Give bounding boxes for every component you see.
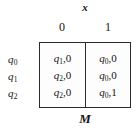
table-cell-q0-1-output: 0	[111, 52, 117, 64]
row-header-q2-subscript: 2	[14, 92, 18, 101]
row-header-q2: q2	[8, 85, 36, 102]
row-header-q0-subscript: 0	[14, 58, 18, 67]
table-cell-q1-1-next-state: q0	[99, 69, 108, 81]
machine-label: M	[39, 111, 131, 127]
table-column-input-1: q0,0 q0,0 q0,1	[85, 43, 130, 107]
row-header-q1-subscript: 1	[14, 75, 18, 84]
table-cell-q0-0-output: 0	[66, 52, 72, 64]
column-header-row: 0 1	[39, 17, 131, 37]
transition-table: q1,0 q2,0 q2,0 q0,0 q0,0 q0,1	[39, 42, 131, 108]
column-header-1: 1	[85, 17, 131, 37]
table-cell-q1-0-output: 0	[66, 69, 72, 81]
table-cell-q0-1-next-state: q0	[99, 52, 108, 64]
table-cell-q2-1-output: 1	[111, 86, 117, 98]
row-header-q0: q0	[8, 51, 36, 68]
row-header-q1: q1	[8, 68, 36, 85]
column-header-0: 0	[39, 17, 85, 37]
row-header-q1-symbol: q1	[8, 70, 17, 82]
row-header-q2-symbol: q2	[8, 87, 17, 99]
table-cell-q0-0-next-state: q1	[54, 52, 63, 64]
table-cell-q2-0-output: 0	[66, 86, 72, 98]
table-cell-q2-1-next-state: q0	[99, 86, 108, 98]
table-cell-q1-1-output: 0	[111, 69, 117, 81]
table-cell-q1-0-next-state: q2	[54, 69, 63, 81]
table-cell-q2-0-next-state: q2	[54, 86, 63, 98]
row-header-column: q0 q1 q2	[8, 45, 36, 107]
table-cell-q2-1: q0,1	[86, 84, 130, 101]
table-cell-q2-0: q2,0	[40, 84, 85, 101]
table-cell-q0-1: q0,0	[86, 50, 130, 67]
table-cell-q1-1: q0,0	[86, 67, 130, 84]
state-transition-table-figure: x 0 1 q0 q1 q2 q1,0 q2,0 q2,0	[0, 0, 138, 136]
row-header-q0-symbol: q0	[8, 53, 17, 65]
table-cell-q0-0: q1,0	[40, 50, 85, 67]
table-column-input-0: q1,0 q2,0 q2,0	[40, 43, 85, 107]
input-variable-label: x	[39, 1, 131, 14]
table-cell-q1-0: q2,0	[40, 67, 85, 84]
